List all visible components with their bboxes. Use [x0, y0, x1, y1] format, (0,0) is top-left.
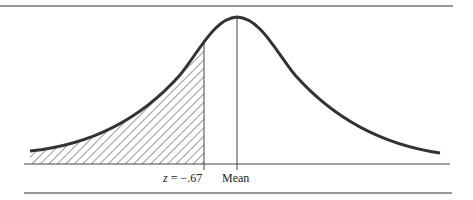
mean-label: Mean	[222, 171, 249, 186]
normal-curve-diagram	[0, 0, 473, 200]
shaded-left-tail	[30, 17, 440, 164]
bell-curve	[30, 17, 440, 153]
z-label: z = −.67	[163, 171, 202, 186]
